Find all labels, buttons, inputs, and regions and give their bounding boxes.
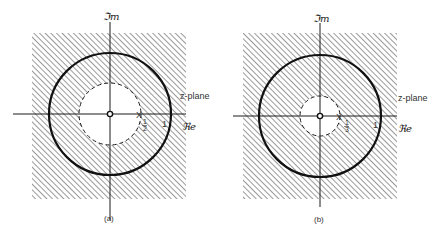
real-axis-label: ℜe — [398, 123, 412, 134]
panel-b: X 1 3 1 z-plane ℜe ℑm (b) — [233, 13, 428, 224]
pole-label-num: 1 — [345, 119, 349, 126]
zero-marker — [107, 111, 112, 116]
pole-label-num: 1 — [143, 118, 147, 125]
real-axis-label: ℜe — [182, 121, 196, 132]
plane-label: z-plane — [180, 91, 210, 101]
unit-label: 1 — [373, 120, 378, 130]
pole-label-den: 2 — [143, 125, 147, 132]
panel-a: X 1 2 1 z-plane ℜe ℑm (a) — [13, 11, 210, 223]
imag-axis-label: ℑm — [103, 11, 119, 22]
pole-marker: X — [336, 112, 342, 122]
zero-marker — [317, 113, 322, 118]
pole-marker: X — [136, 110, 142, 120]
pole-label-den: 3 — [345, 126, 349, 133]
unit-label: 1 — [162, 119, 167, 129]
imag-axis-label: ℑm — [313, 13, 329, 24]
panel-caption: (a) — [104, 214, 114, 223]
panel-caption: (b) — [314, 215, 324, 224]
plane-label: z-plane — [398, 93, 428, 103]
pole-zero-diagram: X 1 2 1 z-plane ℜe ℑm (a) X 1 3 1 z-plan… — [0, 0, 443, 242]
